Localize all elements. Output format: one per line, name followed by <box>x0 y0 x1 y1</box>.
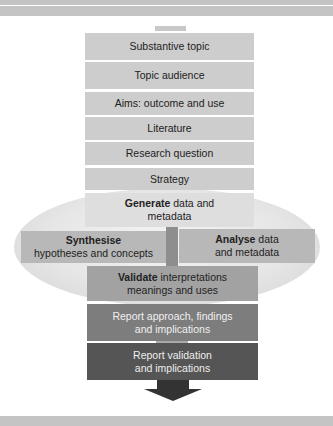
top-bar <box>0 0 333 5</box>
step-keyword: Synthesise <box>66 234 121 247</box>
top-stub <box>155 26 186 31</box>
step-line1: Report approach, findings <box>112 310 232 323</box>
step-literature: Literature <box>85 117 254 140</box>
step-line2: and implications <box>135 362 210 375</box>
step-text: interpretations <box>158 271 227 283</box>
step-text: data and <box>170 197 214 209</box>
step-label: Aims: outcome and use <box>115 97 225 110</box>
step-line2: and implications <box>135 323 210 336</box>
step-line2: meanings and uses <box>127 284 218 297</box>
step-label: Strategy <box>150 173 189 186</box>
step-aims: Aims: outcome and use <box>85 92 254 115</box>
step-label: Substantive topic <box>130 40 210 53</box>
step-keyword: Analyse <box>215 233 255 245</box>
step-substantive-topic: Substantive topic <box>85 33 254 60</box>
step-line2: and metadata <box>215 246 279 259</box>
vertical-connector <box>166 227 178 267</box>
step-validate: Validate interpretations meanings and us… <box>87 266 258 301</box>
step-topic-audience: Topic audience <box>85 62 254 89</box>
step-line1: Generate data and <box>125 197 214 210</box>
step-text: data <box>255 233 278 245</box>
step-synthesise: Synthesise hypotheses and concepts <box>21 231 166 263</box>
step-report-approach: Report approach, findings and implicatio… <box>87 304 258 341</box>
step-label: Topic audience <box>134 69 204 82</box>
step-strategy: Strategy <box>85 168 254 190</box>
step-line2: hypotheses and concepts <box>34 247 153 260</box>
bottom-bar <box>0 416 333 426</box>
down-arrow-icon <box>140 380 206 402</box>
step-line1: Analyse data <box>215 233 279 246</box>
step-research-question: Research question <box>85 142 254 165</box>
step-analyse: Analyse data and metadata <box>179 229 315 263</box>
step-line2: metadata <box>148 210 192 223</box>
step-label: Research question <box>126 147 214 160</box>
step-keyword: Generate <box>125 197 171 209</box>
step-line1: Validate interpretations <box>118 271 227 284</box>
step-line1: Report validation <box>133 349 212 362</box>
step-report-validation: Report validation and implications <box>87 343 258 380</box>
step-keyword: Validate <box>118 271 158 283</box>
step-generate: Generate data and metadata <box>85 193 254 227</box>
top-bar-2 <box>0 6 333 16</box>
step-label: Literature <box>147 122 191 135</box>
